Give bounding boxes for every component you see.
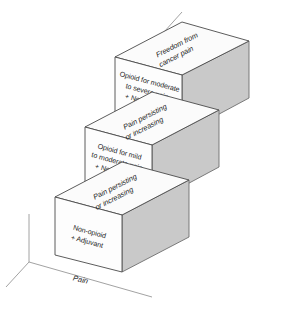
ground-baseline-right (29, 262, 152, 297)
baseline-label-group: Pain (72, 273, 89, 285)
who-analgesic-ladder-figure: Freedom from cancer pain Opioid for mode… (0, 0, 285, 311)
baseline-label: Pain (72, 273, 89, 285)
ladder-diagram: Freedom from cancer pain Opioid for mode… (0, 0, 285, 311)
ground-baseline-left (6, 262, 29, 287)
